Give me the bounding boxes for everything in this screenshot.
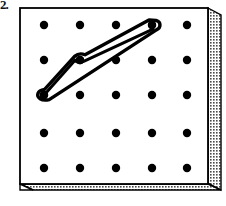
peg: [40, 21, 48, 29]
peg: [76, 164, 84, 172]
peg: [148, 164, 156, 172]
peg: [183, 56, 191, 64]
peg: [112, 129, 120, 137]
peg: [183, 164, 191, 172]
peg: [183, 91, 191, 99]
peg: [148, 129, 156, 137]
peg: [76, 21, 84, 29]
anchor-peg: [76, 56, 84, 64]
peg: [183, 129, 191, 137]
geoboard-figure: 2.: [0, 0, 226, 206]
peg: [112, 21, 120, 29]
peg: [40, 164, 48, 172]
peg: [183, 21, 191, 29]
peg: [112, 91, 120, 99]
anchor-peg: [148, 21, 156, 29]
geoboard-drawing: [0, 0, 226, 206]
peg: [148, 91, 156, 99]
anchor-peg: [40, 91, 48, 99]
peg: [40, 56, 48, 64]
peg: [76, 129, 84, 137]
peg: [40, 129, 48, 137]
peg: [148, 56, 156, 64]
peg: [112, 164, 120, 172]
board-right-side-panel: [208, 8, 221, 190]
peg: [76, 91, 84, 99]
